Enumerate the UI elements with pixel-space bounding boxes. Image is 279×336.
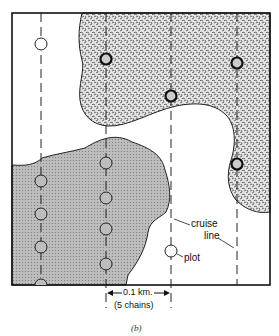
cruise-leader-1: [174, 219, 190, 225]
plot-leader: [177, 254, 183, 257]
plot-gray: [35, 175, 47, 187]
plot-bold: [101, 54, 112, 65]
cruise-leader-2: [218, 238, 234, 248]
cruise-line-label-2: line: [204, 231, 220, 241]
cruise-line-label-1: cruise: [191, 219, 218, 229]
figure-caption: (b): [131, 323, 142, 333]
plot-open: [35, 38, 47, 50]
cruise-diagram: [0, 0, 279, 336]
scale-chains-label: (5 chains): [114, 301, 154, 310]
plot-gray: [35, 208, 47, 220]
plot-bold: [232, 58, 243, 69]
plot-open: [165, 245, 177, 257]
scale-distance-label: 0.1 km.: [122, 288, 154, 297]
plot-bold: [166, 91, 177, 102]
plot-bold: [232, 159, 243, 170]
plot-gray: [100, 223, 112, 235]
plot-gray: [100, 258, 112, 270]
plot-gray: [100, 192, 112, 204]
plot-gray: [35, 241, 47, 253]
plot-label: plot: [184, 253, 200, 263]
plot-gray: [100, 157, 112, 169]
